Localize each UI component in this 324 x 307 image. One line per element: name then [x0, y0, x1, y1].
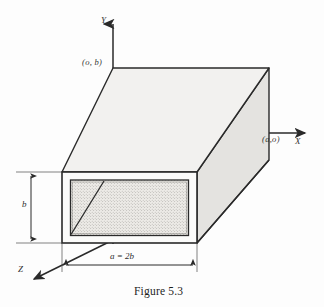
x-axis-label: X: [295, 137, 301, 146]
dimension-label-height: b: [22, 200, 27, 209]
coordinate-label-right: (a,o): [262, 135, 280, 144]
waveguide-diagram: [0, 0, 324, 307]
z-axis-label: Z: [18, 265, 23, 274]
figure-caption: Figure 5.3: [134, 286, 183, 298]
z-axis: [34, 240, 113, 279]
dimension-label-width: a = 2b: [110, 252, 134, 261]
figure-container: Y X Z (o, b) (a,o) b a = 2b Figure 5.3: [0, 0, 324, 307]
y-axis-label: Y: [101, 16, 106, 25]
coordinate-label-top-left: (o, b): [82, 58, 102, 67]
